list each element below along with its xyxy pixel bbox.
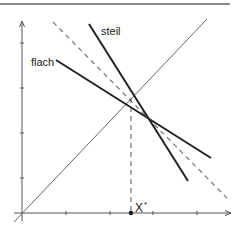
diagram: flach steil X*: [0, 0, 242, 234]
steep-line: [89, 24, 188, 181]
flat-line: [56, 60, 211, 158]
steep-line-label: steil: [101, 25, 121, 37]
dashed-reference-line: [53, 22, 228, 199]
y-axis: [20, 21, 25, 221]
flat-line-label: flach: [31, 56, 54, 68]
x-axis: [14, 211, 231, 216]
diagonal-45-line: [14, 19, 207, 222]
equilibrium-point: [129, 211, 134, 216]
